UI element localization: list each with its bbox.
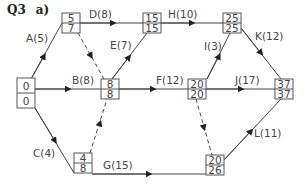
activity-label-f: F(12) <box>156 74 184 86</box>
activity-label-i: I(3) <box>204 40 222 52</box>
activity-label-h: H(10) <box>168 8 197 20</box>
network-diagram: A(5) B(8) C(4) D(8) E(7) F(12) G(15) H(1… <box>0 0 304 191</box>
node-start-late: 0 <box>23 95 30 107</box>
activity-label-e: E(7) <box>110 39 132 51</box>
node-4-late: 8 <box>80 162 87 174</box>
activity-label-k: K(12) <box>255 30 283 42</box>
node-3-late: 8 <box>107 88 114 100</box>
activity-label-d: D(8) <box>89 8 112 20</box>
activity-label-c: C(4) <box>33 147 55 159</box>
activity-label-a: A(5) <box>26 32 48 44</box>
node-end-late: 37 <box>277 88 290 100</box>
activity-label-g: G(15) <box>103 159 133 171</box>
node-1-late: 7 <box>68 22 75 34</box>
node-8-late: 26 <box>208 164 222 176</box>
node-start-early: 0 <box>23 80 30 92</box>
node-6-late: 20 <box>190 88 203 100</box>
activity-label-l: L(11) <box>254 127 281 139</box>
node-5-late: 25 <box>225 22 238 34</box>
activity-label-j: J(17) <box>234 74 260 86</box>
activity-label-b: B(8) <box>72 74 94 86</box>
node-2-late: 15 <box>145 22 158 34</box>
